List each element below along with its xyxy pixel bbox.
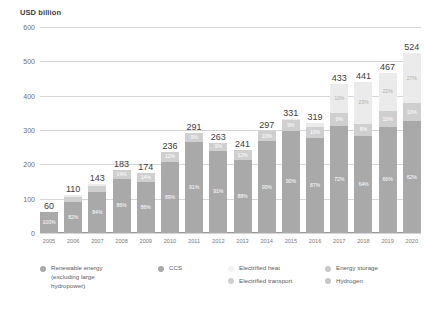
stacked-bar[interactable]: 2919%91% xyxy=(185,133,203,233)
bar-total-label: 174 xyxy=(138,162,153,172)
legend-label: Electrified heat xyxy=(239,264,280,273)
bar-segment[interactable]: 72% xyxy=(330,126,348,233)
bar-column[interactable]: 2919%91%2011 xyxy=(185,27,203,233)
stacked-bar[interactable]: 52427%10%62% xyxy=(403,53,421,233)
stacked-bar[interactable]: 44123%8%64% xyxy=(354,82,372,233)
bar-column[interactable]: 31910%87%2016 xyxy=(306,27,324,233)
legend-label: Hydrogen xyxy=(336,277,363,286)
bar-segment[interactable]: 14% xyxy=(113,170,131,179)
stacked-bar[interactable]: 31910%87% xyxy=(306,123,324,233)
bar-column[interactable]: 14384%2007 xyxy=(88,27,106,233)
bar-segment[interactable]: 62% xyxy=(403,121,421,233)
bar-segment[interactable]: 10% xyxy=(379,111,397,127)
bar-column[interactable]: 17414%86%2009 xyxy=(137,27,155,233)
x-axis-tick-label: 2007 xyxy=(91,238,103,244)
bar-total-label: 263 xyxy=(211,132,226,142)
bar-segment[interactable]: 10% xyxy=(330,84,348,112)
x-axis-tick-label: 2019 xyxy=(381,238,393,244)
legend-item[interactable]: Hydrogen xyxy=(325,277,378,286)
bar-total-label: 433 xyxy=(332,73,347,83)
bar-column[interactable]: 46722%10%66%2019 xyxy=(379,27,397,233)
bar-segment[interactable]: 8% xyxy=(354,124,372,136)
bar-segment[interactable]: 22% xyxy=(379,73,397,111)
bar-segment[interactable]: 90% xyxy=(282,131,300,233)
stacked-bar[interactable]: 18314%86% xyxy=(113,170,131,233)
bar-segment[interactable]: 9% xyxy=(209,143,227,151)
chart-container: USD billion 6005004003002001000 60100%20… xyxy=(0,0,435,311)
bar-segment[interactable]: 10% xyxy=(258,131,276,141)
legend-column: Renewable energy (excluding large hydrop… xyxy=(40,264,103,295)
stacked-bar[interactable]: 2639%91% xyxy=(209,143,227,233)
stacked-bar[interactable]: 3319%90% xyxy=(282,119,300,233)
y-axis-title: USD billion xyxy=(20,8,61,17)
bar-column[interactable]: 60100%2005 xyxy=(40,27,58,233)
bar-column[interactable]: 24112%88%2013 xyxy=(234,27,252,233)
x-axis-tick-label: 2013 xyxy=(236,238,248,244)
stacked-bar[interactable]: 24112%88% xyxy=(234,150,252,233)
bar-segment[interactable]: 23% xyxy=(354,82,372,124)
bar-total-label: 236 xyxy=(162,141,177,151)
bar-segment[interactable]: 87% xyxy=(306,138,324,233)
x-axis-tick-label: 2011 xyxy=(188,238,200,244)
bar-total-label: 297 xyxy=(259,120,274,130)
legend-item[interactable]: Renewable energy (excluding large hydrop… xyxy=(40,264,103,291)
bar-segment[interactable]: 64% xyxy=(354,136,372,233)
stacked-bar[interactable]: 11082% xyxy=(64,195,82,233)
bar-column[interactable]: 3319%90%2015 xyxy=(282,27,300,233)
stacked-bar[interactable]: 14384% xyxy=(88,184,106,233)
legend-swatch-icon xyxy=(228,266,234,272)
bar-segment[interactable]: 27% xyxy=(403,53,421,103)
x-axis-tick-label: 2010 xyxy=(164,238,176,244)
stacked-bar[interactable]: 23612%89% xyxy=(161,152,179,233)
legend-item[interactable]: Electrified heat xyxy=(228,264,292,273)
bar-group: 60100%200511082%200614384%200718314%86%2… xyxy=(40,27,421,233)
bar-segment[interactable]: 84% xyxy=(88,192,106,233)
legend-swatch-icon xyxy=(228,278,234,284)
bar-segment[interactable]: 86% xyxy=(137,182,155,233)
bar-column[interactable]: 52427%10%62%2020 xyxy=(403,27,421,233)
stacked-bar[interactable]: 29710%90% xyxy=(258,131,276,233)
plot-area: 6005004003002001000 60100%200511082%2006… xyxy=(40,27,421,233)
bar-column[interactable]: 18314%86%2008 xyxy=(113,27,131,233)
bar-segment[interactable]: 100% xyxy=(40,212,58,233)
bar-column[interactable]: 44123%8%64%2018 xyxy=(354,27,372,233)
bar-segment[interactable]: 9% xyxy=(330,113,348,126)
bar-segment[interactable]: 86% xyxy=(113,179,131,233)
stacked-bar[interactable]: 43310%9%72% xyxy=(330,84,348,233)
bar-segment[interactable]: 9% xyxy=(282,120,300,130)
bar-segment[interactable]: 88% xyxy=(234,160,252,233)
x-axis-tick-label: 2008 xyxy=(115,238,127,244)
bar-segment[interactable]: 89% xyxy=(161,162,179,233)
bar-segment[interactable]: 91% xyxy=(185,142,203,233)
stacked-bar[interactable]: 60100% xyxy=(40,212,58,233)
legend-item[interactable]: CCS xyxy=(158,264,182,273)
legend-column: CCS xyxy=(158,264,182,277)
bar-column[interactable]: 2639%91%2012 xyxy=(209,27,227,233)
bar-segment[interactable]: 14% xyxy=(137,173,155,181)
legend-swatch-icon xyxy=(325,266,331,272)
y-axis-tick-label: 400 xyxy=(23,92,35,99)
legend-column: Electrified heatElectrified transport xyxy=(228,264,292,290)
bar-column[interactable]: 11082%2006 xyxy=(64,27,82,233)
chart-legend: Renewable energy (excluding large hydrop… xyxy=(40,264,430,308)
legend-item[interactable]: Electrified transport xyxy=(228,277,292,286)
bar-segment[interactable]: 12% xyxy=(234,150,252,160)
legend-swatch-icon xyxy=(40,266,46,272)
bar-segment[interactable]: 12% xyxy=(161,152,179,162)
bar-segment[interactable]: 10% xyxy=(403,103,421,121)
bar-column[interactable]: 23612%89%2010 xyxy=(161,27,179,233)
bar-segment[interactable]: 91% xyxy=(209,151,227,233)
bar-column[interactable]: 43310%9%72%2017 xyxy=(330,27,348,233)
bar-segment[interactable]: 82% xyxy=(64,202,82,233)
bar-column[interactable]: 29710%90%2014 xyxy=(258,27,276,233)
x-axis-tick-label: 2016 xyxy=(309,238,321,244)
bar-segment[interactable]: 9% xyxy=(185,133,203,142)
legend-swatch-icon xyxy=(325,278,331,284)
stacked-bar[interactable]: 46722%10%66% xyxy=(379,73,397,233)
bar-segment[interactable]: 90% xyxy=(258,141,276,233)
stacked-bar[interactable]: 17414%86% xyxy=(137,173,155,233)
bar-segment[interactable]: 66% xyxy=(379,127,397,233)
legend-swatch-icon xyxy=(158,266,164,272)
bar-segment[interactable]: 10% xyxy=(306,127,324,138)
legend-item[interactable]: Energy storage xyxy=(325,264,378,273)
